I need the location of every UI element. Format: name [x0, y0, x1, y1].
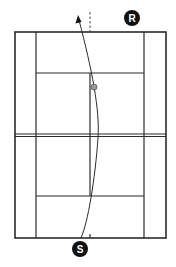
- server-marker-label: S: [77, 244, 84, 255]
- server-marker: S: [72, 241, 88, 257]
- receiver-marker-label: R: [128, 13, 136, 24]
- tennis-court-diagram: R S: [0, 0, 176, 267]
- serve-trajectory-curve: [79, 20, 98, 238]
- arrowhead-icon: [76, 15, 82, 24]
- receiver-marker: R: [124, 10, 140, 26]
- ball-icon: [91, 84, 97, 90]
